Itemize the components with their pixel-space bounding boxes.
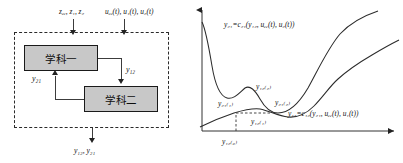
coupling-y21-horizontal xyxy=(55,99,84,100)
coupling-y12-horizontal xyxy=(98,58,121,59)
output-arrow-head xyxy=(89,138,95,143)
left-panel-block-diagram: zₑₑ, z₁, z₂ uₑₑ(t), u₁(t), u₂(t) 学科一 学科二… xyxy=(0,0,196,163)
coupling-label-y12: y₁₂ xyxy=(126,66,135,74)
figure-root: zₑₑ, z₁, z₂ uₑₑ(t), u₁(t), u₂(t) 学科一 学科二… xyxy=(0,0,403,163)
equation-y12: y₁₂=c₁₂(y₂₁, uₑₑ(t), u₁(t)) xyxy=(288,109,358,118)
system-output-label: y₁₂, y₂₁ xyxy=(74,147,95,155)
equation-y21: y₂₁=c₂₁(y₁₂, uₑₑ(t), u₂(t)) xyxy=(224,20,294,29)
design-variables-label: zₑₑ, z₁, z₂ xyxy=(59,8,84,15)
coupling-y12-arrowhead xyxy=(118,79,124,84)
right-panel-iteration-plot: y₂₁=c₂₁(y₁₂, uₑₑ(t), u₂(t)) y₁₂=c₁₂(y₂₁,… xyxy=(196,0,403,163)
coupling-label-y21: y₂₁ xyxy=(32,75,41,83)
point-label-y21-2: y₂₁₍₂₎ xyxy=(275,98,290,107)
point-label-y21-1: y₂₁₍₁₎ xyxy=(218,99,233,108)
point-label-y12-1: y₁₂₍₁₎ xyxy=(251,117,266,126)
discipline-2-block[interactable]: 学科二 xyxy=(84,86,158,112)
coupling-y12-vertical xyxy=(121,58,122,80)
coupling-y21-arrowhead xyxy=(52,70,58,75)
discipline-1-block[interactable]: 学科一 xyxy=(24,45,98,71)
coupling-y21-vertical xyxy=(55,76,56,99)
point-label-y12-2: y₁₂₍₂₎ xyxy=(256,82,271,91)
point-label-y12-0: y₁₂₍₀₎ xyxy=(222,137,237,146)
control-inputs-label: uₑₑ(t), u₁(t), u₂(t) xyxy=(105,8,153,15)
